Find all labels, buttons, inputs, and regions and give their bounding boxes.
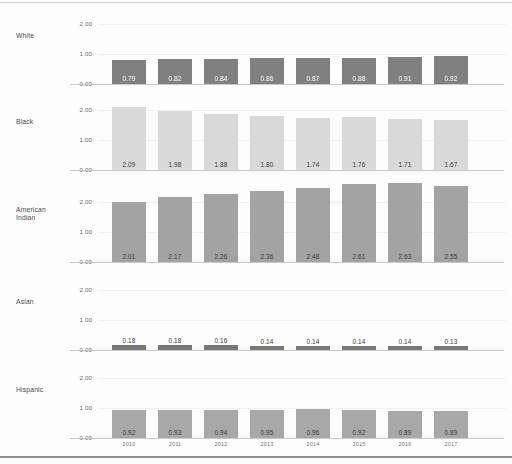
bar-value-label: 1.88 [204, 161, 238, 168]
x-tick-label: 2013 [250, 441, 284, 447]
bar-value-label: 0.89 [434, 429, 468, 436]
bar[interactable] [204, 345, 238, 350]
bar-value-label: 0.96 [296, 429, 330, 436]
bar-slot: 2.63 [388, 184, 422, 262]
bar[interactable] [388, 183, 422, 262]
bar-slot: 1.88 [204, 96, 238, 170]
bar-slot: 0.92 [434, 6, 468, 84]
bar-value-label: 0.93 [158, 429, 192, 436]
bar[interactable] [112, 345, 146, 350]
bar[interactable] [250, 346, 284, 350]
bar-value-label: 0.92 [434, 75, 468, 82]
bar-slot: 0.16 [204, 274, 238, 350]
bar-value-label: 1.80 [250, 161, 284, 168]
panel-black: Black0.001.002.002.091.981.881.801.741.7… [0, 96, 512, 182]
bar-value-label: 0.92 [342, 429, 376, 436]
bar-slot: 0.14 [296, 274, 330, 350]
bar-value-label: 0.79 [112, 75, 146, 82]
y-tick-label: 2.00 [62, 374, 92, 381]
bar-slot: 1.71 [388, 96, 422, 170]
bar-slot: 0.13 [434, 274, 468, 350]
x-tick-label: 2011 [158, 441, 192, 447]
bar-group: 0.790.820.840.860.870.880.910.92 [98, 6, 504, 84]
bar-value-label: 2.01 [112, 253, 146, 260]
bar[interactable] [296, 188, 330, 262]
bar-value-label: 0.91 [388, 75, 422, 82]
bar-slot: 1.67 [434, 96, 468, 170]
bar[interactable] [434, 186, 468, 263]
bar-value-label: 0.13 [434, 338, 468, 345]
bar[interactable] [158, 345, 192, 350]
bar-slot: 0.82 [158, 6, 192, 84]
bar-slot: 0.92 [112, 358, 146, 438]
bar-value-label: 0.87 [296, 75, 330, 82]
bar-value-label: 2.48 [296, 253, 330, 260]
bar-value-label: 2.36 [250, 253, 284, 260]
bar-value-label: 1.67 [434, 161, 468, 168]
bar-value-label: 1.98 [158, 161, 192, 168]
bar-value-label: 0.88 [342, 75, 376, 82]
bar-group: 0.180.180.160.140.140.140.140.13 [98, 274, 504, 350]
axis-baseline [70, 262, 504, 263]
bar-slot: 2.48 [296, 184, 330, 262]
bar-slot: 1.76 [342, 96, 376, 170]
x-tick-label: 2015 [342, 441, 376, 447]
bar-slot: 0.18 [158, 274, 192, 350]
bar-value-label: 0.86 [250, 75, 284, 82]
x-tick-label: 2012 [204, 441, 238, 447]
bar-slot: 2.09 [112, 96, 146, 170]
bar-slot: 0.14 [388, 274, 422, 350]
bar-value-label: 0.14 [296, 338, 330, 345]
bar-slot: 0.93 [158, 358, 192, 438]
bar-slot: 0.14 [342, 274, 376, 350]
bar-value-label: 2.61 [342, 253, 376, 260]
bar-slot: 2.01 [112, 184, 146, 262]
bar[interactable] [434, 346, 468, 350]
x-tick-label: 2016 [388, 441, 422, 447]
bar-slot: 0.89 [388, 358, 422, 438]
bar-slot: 0.88 [342, 6, 376, 84]
bar-slot: 0.84 [204, 6, 238, 84]
bar-value-label: 2.17 [158, 253, 192, 260]
x-tick-label: 2010 [112, 441, 146, 447]
panel-hispanic: Hispanic0.001.002.000.920.930.940.950.96… [0, 358, 512, 444]
axis-baseline [70, 84, 504, 85]
bar[interactable] [342, 346, 376, 350]
small-multiples-bar-chart: White0.001.002.000.790.820.840.860.870.8… [0, 0, 512, 464]
bar[interactable] [342, 184, 376, 262]
bar-slot: 0.96 [296, 358, 330, 438]
bar-slot: 0.91 [388, 6, 422, 84]
bar-slot: 0.79 [112, 6, 146, 84]
plot-area: 0.001.002.000.180.180.160.140.140.140.14… [62, 274, 506, 356]
bar-value-label: 1.76 [342, 161, 376, 168]
bar-slot: 0.86 [250, 6, 284, 84]
y-tick-label: 1.00 [62, 136, 92, 143]
panel-asian: Asian0.001.002.000.180.180.160.140.140.1… [0, 274, 512, 356]
panel-white: White0.001.002.000.790.820.840.860.870.8… [0, 6, 512, 94]
bar-value-label: 0.82 [158, 75, 192, 82]
top-rule [0, 2, 512, 3]
bar-value-label: 0.92 [112, 429, 146, 436]
bar-slot: 0.89 [434, 358, 468, 438]
bar-slot: 2.55 [434, 184, 468, 262]
bar-slot: 2.26 [204, 184, 238, 262]
bar-value-label: 0.95 [250, 429, 284, 436]
bar-slot: 0.14 [250, 274, 284, 350]
bar-slot: 0.18 [112, 274, 146, 350]
bar-slot: 2.36 [250, 184, 284, 262]
bar-value-label: 0.94 [204, 429, 238, 436]
bar[interactable] [296, 346, 330, 350]
bar[interactable] [250, 191, 284, 262]
plot-area: 0.001.002.002.012.172.262.362.482.612.63… [62, 184, 506, 272]
bar-group: 2.091.981.881.801.741.761.711.67 [98, 96, 504, 170]
x-axis: 20102011201220132014201520162017 [98, 439, 504, 451]
y-tick-label: 2.00 [62, 20, 92, 27]
bar-slot: 1.74 [296, 96, 330, 170]
bar[interactable] [388, 346, 422, 350]
bottom-rule [0, 456, 512, 458]
y-tick-label: 1.00 [62, 50, 92, 57]
bar[interactable] [204, 194, 238, 262]
bar-value-label: 0.14 [388, 338, 422, 345]
bar-group: 0.920.930.940.950.960.920.890.89 [98, 358, 504, 438]
bar-slot: 2.17 [158, 184, 192, 262]
